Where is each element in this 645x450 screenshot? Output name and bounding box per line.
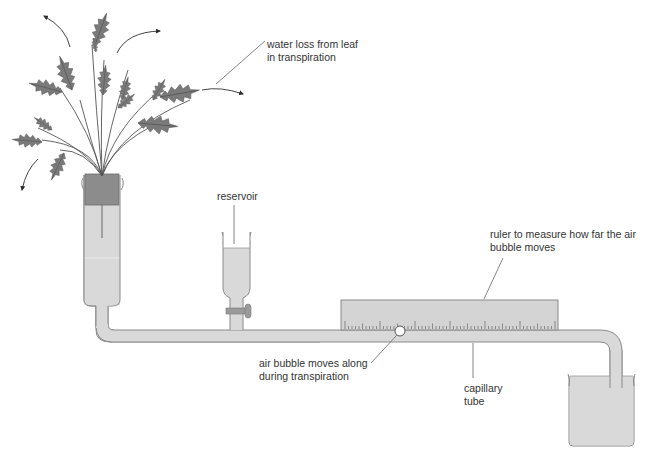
leader-water-loss: [216, 41, 265, 84]
leaf: [96, 65, 112, 96]
leaf: [137, 114, 178, 135]
leaf: [45, 150, 70, 183]
label-air-bubble: air bubble moves along during transpirat…: [259, 357, 368, 383]
leaf: [27, 76, 64, 100]
label-capillary-tube: capillary tube: [464, 382, 503, 408]
leader-ruler: [484, 258, 503, 299]
leaf: [12, 133, 43, 149]
plant: [12, 10, 201, 183]
label-reservoir: reservoir: [217, 190, 258, 203]
beaker: [568, 350, 635, 446]
label-ruler: ruler to measure how far the air bubble …: [490, 228, 636, 254]
leaf: [52, 53, 80, 92]
arrow: [117, 31, 160, 53]
ruler: [341, 300, 558, 330]
leaf: [31, 113, 55, 134]
arrow: [44, 16, 70, 47]
arrow: [22, 159, 38, 190]
arrow: [202, 89, 243, 94]
air-bubble: [395, 326, 405, 336]
rubber-bung: [85, 174, 119, 205]
leaf: [158, 81, 201, 106]
leaves: [12, 10, 201, 183]
label-water-loss: water loss from leaf in transpiration: [267, 38, 358, 64]
